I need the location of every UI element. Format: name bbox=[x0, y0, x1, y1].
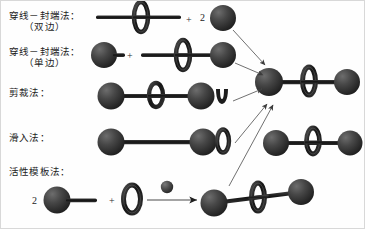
stopper-sphere bbox=[98, 83, 125, 110]
stopper-sphere bbox=[263, 130, 289, 156]
arrow-row2-to-product bbox=[235, 63, 263, 75]
product-right-rotaxane bbox=[263, 128, 363, 156]
figure-canvas: 穿线－封端法： （双边） 穿线－封端法： （单边） 剪裁法： 滑入法： 活性模板… bbox=[0, 0, 365, 229]
row4-dumbbell bbox=[98, 129, 217, 156]
row5-free-ring bbox=[124, 185, 141, 213]
metal-template-sphere bbox=[161, 181, 173, 193]
stopper-sphere bbox=[201, 190, 228, 217]
row3-open-macrocycle-fragment bbox=[216, 89, 228, 104]
row2-half-axle bbox=[91, 42, 125, 68]
row5-half-axle bbox=[44, 187, 98, 214]
stopper-sphere bbox=[190, 129, 217, 156]
row2-axle-through-ring-with-stopper bbox=[141, 40, 236, 70]
stopper-sphere bbox=[188, 83, 215, 110]
arrow-row3-to-product bbox=[233, 89, 262, 101]
product-center-rotaxane bbox=[255, 67, 360, 96]
stopper-sphere bbox=[98, 129, 125, 156]
arrow-row4-to-product bbox=[235, 104, 267, 143]
row1-axle-threaded-through-ring bbox=[96, 2, 181, 32]
row4-free-ring bbox=[217, 130, 229, 153]
row3-dumbbell-with-clipped-ring bbox=[98, 83, 215, 110]
stopper-sphere bbox=[334, 69, 360, 95]
stopper-sphere bbox=[210, 42, 236, 68]
stopper-sphere bbox=[255, 68, 283, 96]
stopper-sphere bbox=[288, 179, 314, 205]
product-bottom-right-rotaxane bbox=[201, 179, 315, 217]
stopper-sphere bbox=[338, 131, 363, 156]
stopper-sphere bbox=[210, 5, 236, 31]
molecular-artwork bbox=[1, 1, 365, 229]
arrow-row1-to-product bbox=[233, 30, 265, 65]
